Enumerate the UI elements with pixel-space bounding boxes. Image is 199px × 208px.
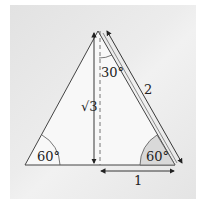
top-angle-label: 30°: [101, 65, 124, 80]
base-label: 1: [134, 173, 142, 188]
hypotenuse-label: 2: [144, 82, 152, 97]
right-angle-label: 60°: [146, 149, 169, 164]
left-angle-label: 60°: [37, 149, 60, 164]
height-label: √3: [81, 99, 98, 114]
triangle-diagram: 30° 60° 60° √3 2 1: [0, 0, 199, 208]
